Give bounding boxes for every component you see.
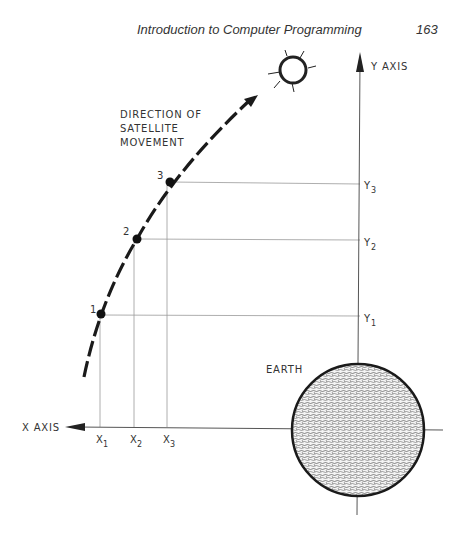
svg-text:DIRECTION OF: DIRECTION OF xyxy=(120,109,202,120)
earth-label: EARTH xyxy=(266,364,303,375)
sun-icon xyxy=(268,50,316,92)
x-axis-label: X AXIS xyxy=(22,422,60,433)
point-3 xyxy=(166,178,175,187)
direction-label: DIRECTION OF SATELLITE MOVEMENT xyxy=(120,109,202,148)
svg-text:1: 1 xyxy=(90,304,96,315)
svg-text:X: X xyxy=(163,434,170,445)
point-1 xyxy=(97,310,106,319)
svg-text:MOVEMENT: MOVEMENT xyxy=(120,137,185,148)
svg-text:X: X xyxy=(130,434,137,445)
satellite-diagram: Y AXIS X AXIS Y 3 Y 2 Y 1 X 1 X 2 X 3 1 … xyxy=(0,0,466,534)
y-axis-arrow-icon xyxy=(356,52,364,72)
svg-text:2: 2 xyxy=(137,440,142,449)
svg-text:2: 2 xyxy=(371,243,376,252)
svg-text:Y: Y xyxy=(363,237,371,248)
x-axis-arrow-icon xyxy=(65,423,85,431)
svg-text:X: X xyxy=(96,434,103,445)
svg-text:2: 2 xyxy=(123,226,129,237)
svg-text:SATELLITE: SATELLITE xyxy=(120,123,179,134)
svg-text:3: 3 xyxy=(170,440,175,449)
point-2 xyxy=(133,235,142,244)
svg-text:Y: Y xyxy=(363,313,371,324)
y-tick-labels: Y 3 Y 2 Y 1 xyxy=(363,180,376,328)
svg-text:3: 3 xyxy=(371,186,376,195)
svg-text:1: 1 xyxy=(371,319,376,328)
earth-icon: EARTH xyxy=(266,364,424,496)
x-tick-labels: X 1 X 2 X 3 xyxy=(96,434,175,449)
svg-text:Y: Y xyxy=(363,180,371,191)
svg-text:1: 1 xyxy=(103,440,108,449)
y-axis-label: Y AXIS xyxy=(370,61,408,72)
svg-text:3: 3 xyxy=(157,170,163,181)
